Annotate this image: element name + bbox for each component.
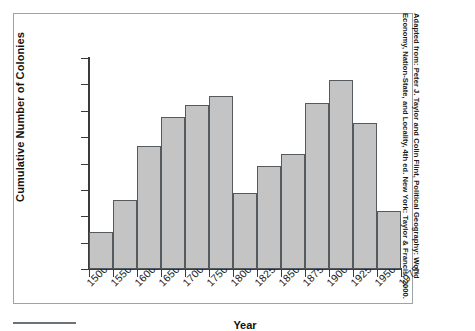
bottom-rule (13, 322, 76, 324)
bar (257, 166, 281, 269)
bar (113, 200, 137, 269)
plot-area (89, 58, 401, 269)
y-axis-tick (81, 269, 88, 270)
bar (185, 105, 209, 269)
y-axis-title: Cumulative Number of Colonies (14, 0, 26, 267)
bar (281, 154, 305, 269)
bar (329, 80, 353, 269)
bar (137, 146, 161, 269)
bar (305, 103, 329, 269)
chart-frame: Cumulative Number of Colonies Year 02040… (13, 13, 413, 304)
y-axis-tick (81, 58, 88, 59)
y-axis-tick (81, 84, 88, 85)
bar (233, 193, 257, 269)
y-axis-tick (81, 216, 88, 217)
figure: Cumulative Number of Colonies Year 02040… (0, 0, 475, 331)
source-citation: Adapted from: Peter J. Taylor and Colin … (373, 13, 421, 304)
y-axis-tick (81, 137, 88, 138)
y-axis-tick (81, 190, 88, 191)
x-axis-title: Year (88, 319, 402, 331)
bar (89, 232, 113, 269)
y-axis-tick (81, 111, 88, 112)
y-axis-tick (81, 243, 88, 244)
bar (161, 117, 185, 269)
y-axis-tick (81, 164, 88, 165)
bar (209, 96, 233, 269)
